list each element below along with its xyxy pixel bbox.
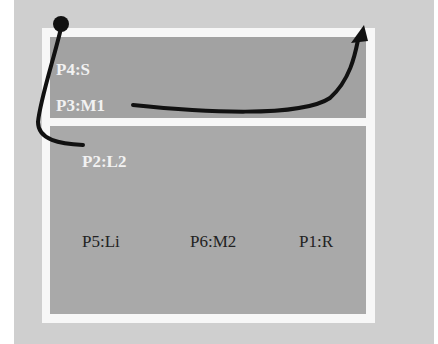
path-overlay [0, 0, 438, 344]
path-segment-right [133, 40, 358, 112]
path-segment-left [38, 28, 83, 145]
arrowhead-icon [351, 25, 368, 43]
